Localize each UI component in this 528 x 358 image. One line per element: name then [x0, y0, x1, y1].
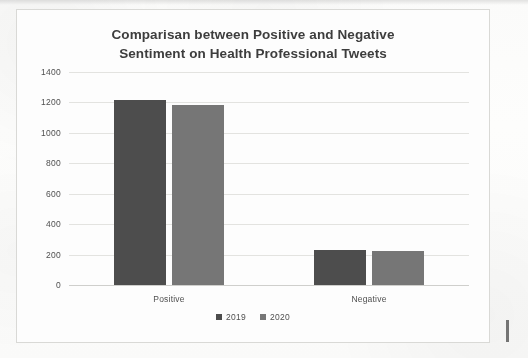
y-axis-tick-label: 400: [46, 219, 61, 229]
bar-positive-2019: [114, 100, 166, 285]
x-axis-label-positive: Positive: [153, 294, 184, 304]
plot-area: 1400120010008006004002000 PositiveNegati…: [69, 72, 469, 285]
legend-label-2019: 2019: [226, 312, 246, 322]
legend-swatch-2019: [216, 314, 222, 320]
legend-item-2020[interactable]: 2020: [260, 312, 290, 322]
x-axis-label-negative: Negative: [351, 294, 386, 304]
y-axis-tick-label: 0: [56, 280, 61, 290]
gridline-1400: 1400: [69, 72, 469, 73]
y-axis-tick-label: 600: [46, 189, 61, 199]
y-axis-tick-label: 800: [46, 158, 61, 168]
y-axis-tick-label: 200: [46, 250, 61, 260]
y-axis-tick-label: 1200: [41, 97, 61, 107]
scan-edge-shadow-top: [0, 0, 528, 5]
chart-legend: 20192020: [16, 312, 490, 322]
legend-swatch-2020: [260, 314, 266, 320]
y-axis-tick-label: 1400: [41, 67, 61, 77]
scan-edge-artifact-right: [506, 320, 509, 342]
gridline-0: 0: [69, 285, 469, 286]
bar-positive-2020: [172, 105, 224, 285]
bar-negative-2019: [314, 250, 366, 285]
legend-label-2020: 2020: [270, 312, 290, 322]
bar-chart: Comparisan between Positive and Negative…: [16, 9, 490, 343]
legend-item-2019[interactable]: 2019: [216, 312, 246, 322]
chart-title: Comparisan between Positive and Negative…: [46, 25, 460, 63]
y-axis-tick-label: 1000: [41, 128, 61, 138]
chart-title-line-1: Comparisan between Positive and Negative: [46, 25, 460, 44]
bar-negative-2020: [372, 251, 424, 285]
chart-title-line-2: Sentiment on Health Professional Tweets: [46, 44, 460, 63]
